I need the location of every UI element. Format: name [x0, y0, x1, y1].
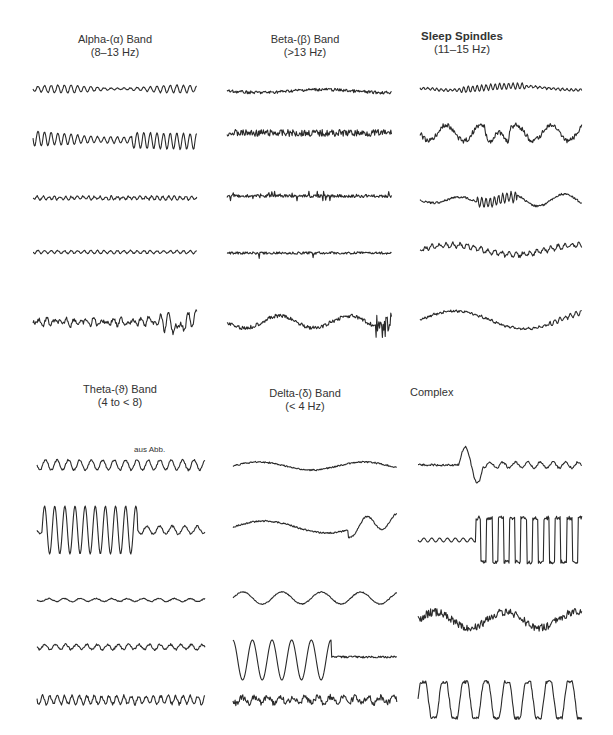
waveform: [420, 310, 582, 330]
waveform: [418, 681, 582, 720]
waveform: [418, 446, 582, 483]
waveform: [233, 513, 397, 538]
waveform: [420, 123, 582, 143]
waveform: [33, 310, 197, 335]
waveform: [233, 640, 397, 680]
alpha-traces: [33, 85, 197, 335]
waveform: [33, 131, 197, 149]
waveform: [37, 459, 205, 471]
waveform: [227, 130, 392, 137]
waveform: [233, 694, 397, 705]
theta-traces: [37, 459, 205, 705]
waveform: [33, 250, 197, 254]
waveform: [33, 196, 197, 201]
waveform: [420, 242, 582, 258]
waveform: [420, 191, 582, 207]
spindle-traces: [420, 83, 582, 330]
eeg-traces: [0, 0, 613, 735]
waveform: [227, 88, 392, 94]
waveform: [418, 609, 582, 632]
waveform: [227, 252, 392, 259]
waveform: [227, 191, 392, 201]
waveform: [233, 592, 397, 605]
complex-traces: [418, 446, 582, 719]
beta-traces: [227, 88, 392, 337]
delta-traces: [233, 461, 397, 705]
waveform: [37, 598, 205, 602]
waveform: [227, 313, 392, 337]
waveform: [37, 695, 205, 706]
waveform: [37, 506, 205, 554]
waveform: [420, 83, 582, 93]
waveform: [233, 461, 397, 470]
waveform: [33, 85, 197, 93]
waveform: [37, 644, 205, 651]
waveform: [418, 516, 582, 564]
